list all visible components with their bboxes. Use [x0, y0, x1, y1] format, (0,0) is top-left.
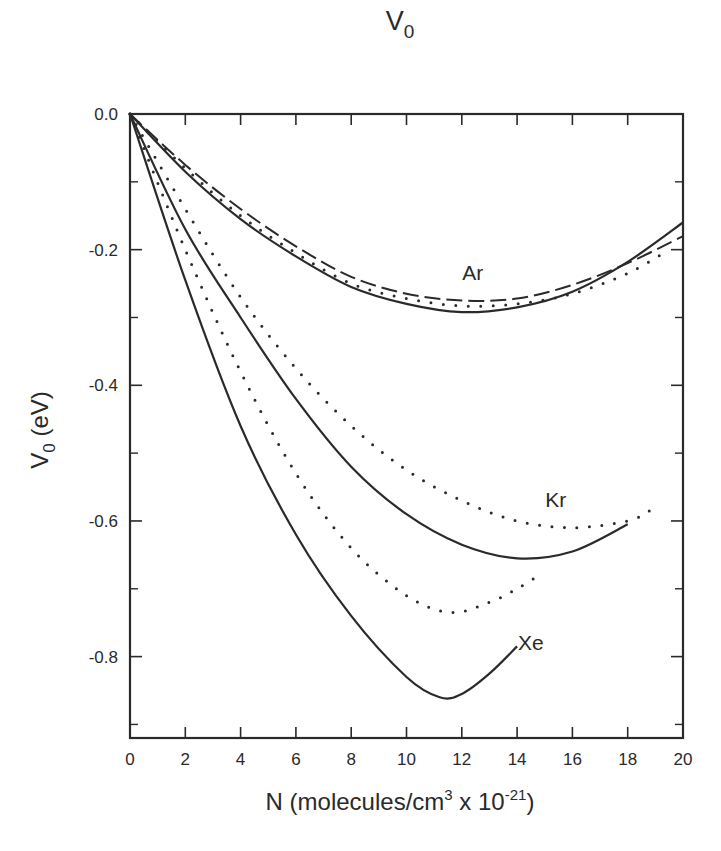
curve-label-kr: Kr [545, 488, 566, 511]
y-tick-label: -0.8 [89, 648, 118, 667]
x-axis-tick-labels: 02468101214161820 [125, 750, 692, 769]
y-tick-label: -0.2 [89, 241, 118, 260]
x-tick-label: 2 [181, 750, 190, 769]
curve-label-ar: Ar [462, 261, 483, 284]
y-tick-label: -0.6 [89, 512, 118, 531]
x-tick-label: 8 [346, 750, 355, 769]
annotations: ArKrXe [462, 261, 566, 654]
x-tick-label: 16 [563, 750, 582, 769]
x-tick-label: 14 [508, 750, 527, 769]
x-axis-ticks [185, 114, 627, 738]
y-tick-label: -0.4 [89, 376, 118, 395]
y-axis-title: V0 (eV) [26, 391, 59, 469]
x-axis-title: N (molecules/cm3 x 10-21) [266, 786, 535, 815]
kr-dotted-curve [130, 114, 650, 528]
ar-solid-curve [130, 114, 683, 312]
plot-frame [130, 114, 683, 738]
x-tick-label: 12 [452, 750, 471, 769]
x-tick-label: 18 [618, 750, 637, 769]
x-tick-label: 10 [397, 750, 416, 769]
curve-label-xe: Xe [518, 631, 544, 654]
chart-canvas: V0 02468101214161820 0.0-0.2-0.4-0.6-0.8… [0, 0, 721, 851]
ar-dashed-curve [130, 114, 683, 301]
x-tick-label: 4 [236, 750, 245, 769]
y-axis-tick-labels: 0.0-0.2-0.4-0.6-0.8 [89, 105, 118, 667]
xe-dotted-curve [130, 114, 539, 613]
x-tick-label: 6 [291, 750, 300, 769]
series-layer [130, 114, 683, 699]
xe-solid-curve [130, 114, 517, 699]
x-tick-label: 0 [125, 750, 134, 769]
x-tick-label: 20 [674, 750, 693, 769]
y-axis-ticks [130, 182, 683, 725]
ar-dotted-curve [130, 114, 669, 306]
y-tick-label: 0.0 [94, 105, 118, 124]
chart-title: V0 [386, 6, 415, 42]
